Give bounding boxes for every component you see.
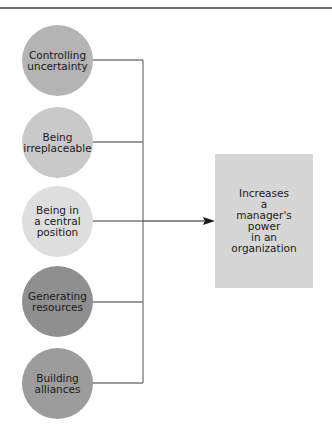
factor-label: Being in a central position xyxy=(34,205,80,238)
factor-central-position: Being in a central position xyxy=(22,186,93,257)
outcome-box: Increases a manager's power in an organi… xyxy=(215,154,313,288)
factor-being-irreplaceable: Being irreplaceable xyxy=(22,107,93,178)
factor-controlling-uncertainty: Controlling uncertainty xyxy=(22,25,93,96)
factor-building-alliances: Building alliances xyxy=(22,348,93,419)
factor-label: Being irreplaceable xyxy=(23,132,91,154)
factor-label: Building alliances xyxy=(35,373,81,395)
outcome-label: Increases a manager's power in an organi… xyxy=(231,188,296,254)
factor-label: Generating resources xyxy=(28,291,87,313)
factor-generating-resources: Generating resources xyxy=(22,266,93,337)
factor-label: Controlling uncertainty xyxy=(27,50,87,72)
